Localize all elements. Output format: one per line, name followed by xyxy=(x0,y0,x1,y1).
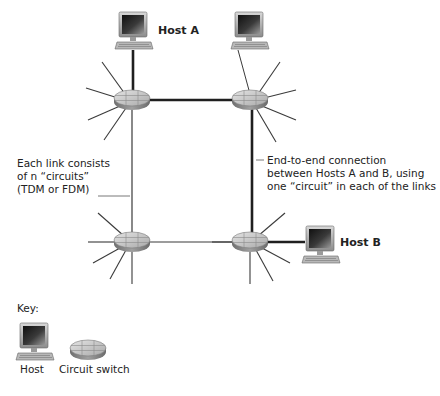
circuit-switch-top-right xyxy=(232,90,268,110)
connection-note: End-to-end connection between Hosts A an… xyxy=(267,154,436,193)
circuit-switch-bottom-right xyxy=(232,232,268,252)
key-host-icon xyxy=(16,323,54,360)
circuit-switch-bottom-left xyxy=(114,232,150,252)
link-note: Each link consists of n “circuits” (TDM … xyxy=(17,157,110,196)
host-a-label: Host A xyxy=(158,24,199,37)
connection-note-line-2: between Hosts A and B, using xyxy=(267,167,436,180)
key-circuit-switch-icon xyxy=(70,340,106,360)
circuit-switch-top-left xyxy=(114,90,150,110)
host-top-right-icon xyxy=(231,12,269,49)
host-b-label: Host B xyxy=(340,236,381,249)
key-circuit-switch-label: Circuit switch xyxy=(59,363,130,376)
key-host-label: Host xyxy=(20,363,44,376)
end-to-end-path xyxy=(132,50,305,242)
host-a-icon xyxy=(115,12,153,49)
link-note-line-2: of n “circuits” xyxy=(17,170,110,183)
circuit-switched-network-diagram xyxy=(0,0,440,396)
thin-links xyxy=(132,50,250,242)
connection-note-line-1: End-to-end connection xyxy=(267,154,436,167)
connection-note-line-3: one “circuit” in each of the links xyxy=(267,180,436,193)
host-b-icon xyxy=(302,226,340,263)
key-title: Key: xyxy=(17,302,39,315)
link-note-line-1: Each link consists xyxy=(17,157,110,170)
link-note-line-3: (TDM or FDM) xyxy=(17,183,110,196)
